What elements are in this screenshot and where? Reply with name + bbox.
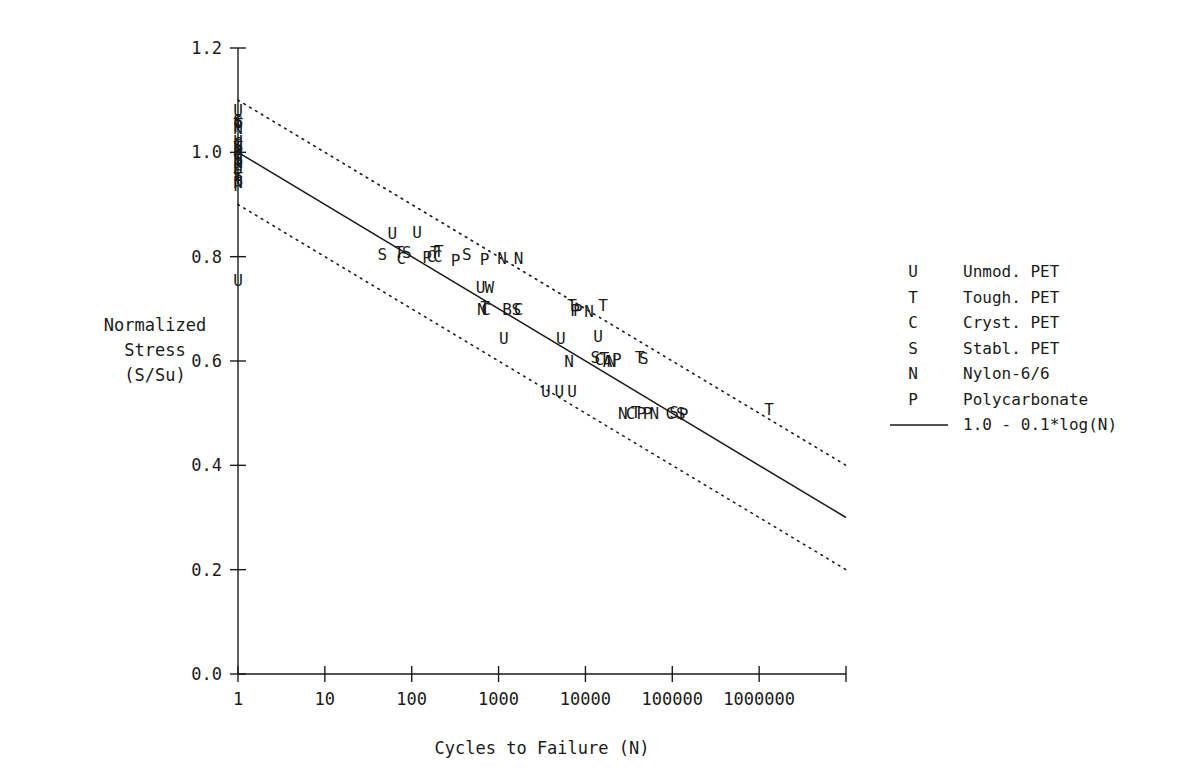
data-marker: P: [480, 250, 490, 269]
legend-line-label: 1.0 - 0.1*log(N): [963, 415, 1117, 434]
data-marker: S: [378, 245, 388, 264]
x-tick-label: 10: [315, 689, 335, 709]
data-marker: U: [541, 382, 551, 401]
data-marker: P: [573, 301, 583, 320]
y-tick-label: 0.0: [191, 664, 222, 684]
data-marker: N: [649, 404, 659, 423]
data-marker: T: [764, 400, 774, 419]
data-marker: P: [612, 350, 622, 369]
y-tick-label: 0.2: [191, 560, 222, 580]
x-tick-label: 1000: [478, 689, 519, 709]
data-marker: N: [497, 249, 507, 268]
data-marker: U: [499, 329, 509, 348]
svg-text:Normalized: Normalized: [104, 315, 206, 335]
data-marker: S: [639, 349, 649, 368]
data-marker: U: [554, 382, 564, 401]
data-marker: U: [593, 327, 603, 346]
legend-label: Tough. PET: [963, 288, 1060, 307]
legend-label: Unmod. PET: [963, 262, 1060, 281]
x-tick-label: 10000: [560, 689, 611, 709]
x-tick-label: 1000000: [723, 689, 795, 709]
legend-label: Stabl. PET: [963, 339, 1060, 358]
y-tick-label: 0.6: [191, 351, 222, 371]
legend: UUnmod. PETTTough. PETCCryst. PETSStabl.…: [890, 262, 1117, 434]
y-axis-title: Normalized Stress (S/Su): [104, 315, 206, 385]
y-tick-label: 0.8: [191, 247, 222, 267]
x-tick-label: 1: [233, 689, 243, 709]
legend-key: U: [908, 262, 918, 281]
data-markers-group: USCTPNUCSTNPUCSTNPUCSTNPUUUSTCSPCTCTPSPN…: [233, 101, 774, 425]
data-marker: N: [584, 302, 594, 321]
legend-label: Nylon-6/6: [963, 364, 1050, 383]
data-marker: S: [462, 245, 472, 264]
data-marker: W: [484, 278, 494, 297]
data-marker: N: [564, 352, 574, 371]
data-marker: N: [514, 249, 524, 268]
data-marker: C: [514, 300, 524, 319]
svg-text:Stress: Stress: [124, 340, 185, 360]
figure-container: 0.00.20.40.60.81.01.2 110100100010000100…: [0, 0, 1201, 777]
axes-group: [238, 48, 846, 674]
fit-line-group: [238, 152, 846, 517]
legend-key: S: [908, 339, 918, 358]
y-tick-label: 1.2: [191, 38, 222, 58]
legend-key: T: [908, 288, 918, 307]
legend-key: N: [908, 364, 918, 383]
data-marker: U: [233, 271, 243, 290]
sn-curve-chart: 0.00.20.40.60.81.01.2 110100100010000100…: [0, 0, 1201, 777]
legend-key: P: [908, 390, 918, 409]
data-marker: P: [679, 405, 689, 424]
x-tick-label: 100000: [642, 689, 703, 709]
x-axis-ticks: 1101001000100001000001000000: [233, 666, 846, 709]
svg-text:(S/Su): (S/Su): [124, 365, 185, 385]
data-marker: T: [598, 296, 608, 315]
data-marker: S: [402, 243, 412, 262]
bound-line: [238, 100, 846, 465]
data-marker: U: [388, 224, 398, 243]
data-marker: T: [434, 242, 444, 261]
data-marker: U: [567, 382, 577, 401]
data-marker: B: [502, 300, 512, 319]
data-marker: C: [481, 300, 491, 319]
data-marker: U: [556, 329, 566, 348]
legend-label: Cryst. PET: [963, 313, 1060, 332]
x-axis-title: Cycles to Failure (N): [435, 738, 650, 758]
legend-label: Polycarbonate: [963, 390, 1088, 409]
data-marker: P: [233, 176, 243, 195]
data-marker: P: [451, 251, 461, 270]
y-tick-label: 0.4: [191, 455, 222, 475]
legend-key: C: [908, 313, 918, 332]
fit-line: [238, 152, 846, 517]
x-tick-label: 100: [396, 689, 427, 709]
y-tick-label: 1.0: [191, 142, 222, 162]
data-marker: U: [412, 223, 422, 242]
